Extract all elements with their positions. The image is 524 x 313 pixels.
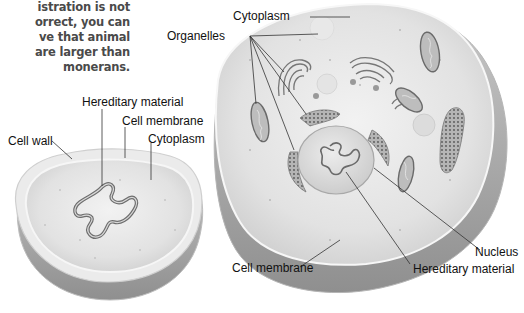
cell-comparison-diagram: istration is not orrect, you can ve that… xyxy=(0,0,524,313)
label-cell-wall: Cell wall xyxy=(8,134,53,148)
label-animal-cytoplasm: Cytoplasm xyxy=(233,9,290,23)
nucleus xyxy=(298,126,374,194)
label-animal-cell-membrane: Cell membrane xyxy=(232,261,313,275)
label-moneran-cell-membrane: Cell membrane xyxy=(122,114,203,128)
animal-cell xyxy=(214,4,507,293)
label-moneran-hereditary-material: Hereditary material xyxy=(82,95,183,109)
label-moneran-cytoplasm: Cytoplasm xyxy=(148,132,205,146)
label-organelles: Organelles xyxy=(167,29,225,43)
label-nucleus: Nucleus xyxy=(475,245,518,259)
label-animal-hereditary-material: Hereditary material xyxy=(413,262,514,276)
